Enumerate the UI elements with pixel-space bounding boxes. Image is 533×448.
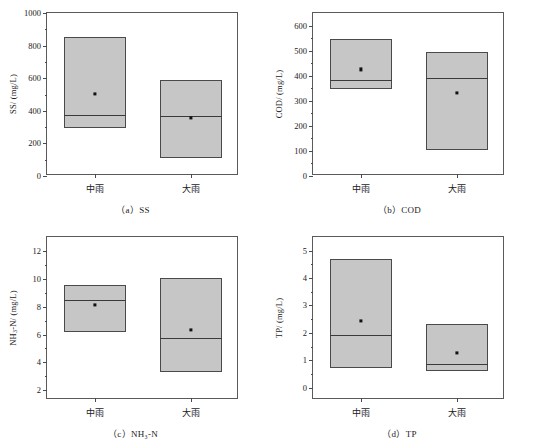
y-minor-tick-cod	[311, 88, 314, 89]
x-tick-ss-0	[95, 174, 96, 178]
median-line-cod-0	[330, 80, 392, 81]
median-line-tp-1	[426, 364, 488, 365]
y-tick-ss	[43, 46, 47, 47]
x-axis-label-nh3n-1: 大雨	[182, 406, 200, 419]
y-tick-ss	[43, 13, 47, 14]
median-line-ss-0	[64, 115, 126, 116]
y-tick-label-nh3n: 6	[37, 330, 41, 340]
y-tick-label-cod: 300	[294, 96, 307, 106]
y-tick-ss	[43, 176, 47, 177]
y-tick-tp	[309, 305, 313, 306]
x-tick-nh3n-0	[95, 398, 96, 402]
y-tick-label-tp: 2	[303, 328, 307, 338]
panel-caption-tp: （d）TP	[266, 427, 533, 440]
y-tick-tp	[309, 333, 313, 334]
x-tick-cod-1	[457, 174, 458, 178]
y-tick-label-cod: 600	[294, 21, 307, 31]
panel-nh3n: NH3-N/ (mg/L)24681012中雨大雨（c）NH₃-N	[0, 224, 266, 448]
y-tick-label-tp: 3	[303, 300, 307, 310]
y-tick-label-tp: 4	[303, 273, 307, 283]
x-axis-label-cod-1: 大雨	[448, 182, 466, 195]
y-tick-label-nh3n: 12	[33, 246, 42, 256]
y-tick-cod	[309, 26, 313, 27]
y-tick-label-cod: 200	[294, 121, 307, 131]
y-tick-ss	[43, 78, 47, 79]
x-axis-label-tp-1: 大雨	[448, 406, 466, 419]
y-tick-cod	[309, 151, 313, 152]
x-axis-label-cod-0: 中雨	[352, 182, 370, 195]
y-tick-label-ss: 1000	[24, 8, 41, 18]
y-tick-label-ss: 0	[37, 171, 41, 181]
mean-marker-ss-0	[93, 92, 96, 95]
y-tick-ss	[43, 111, 47, 112]
y-axis-label-ss: SS/ (mg/L)	[2, 12, 24, 175]
y-tick-tp	[309, 251, 313, 252]
y-tick-nh3n	[43, 362, 47, 363]
y-minor-tick-nh3n	[45, 265, 48, 266]
box-tp-0	[330, 259, 392, 367]
y-tick-tp	[309, 388, 313, 389]
median-line-nh3n-1	[160, 338, 222, 339]
x-axis-label-nh3n-0: 中雨	[86, 406, 104, 419]
y-minor-tick-nh3n	[45, 293, 48, 294]
mean-marker-tp-0	[359, 320, 362, 323]
mean-marker-cod-0	[359, 68, 362, 71]
x-axis-label-ss-0: 中雨	[86, 182, 104, 195]
median-line-tp-0	[330, 335, 392, 336]
y-minor-tick-tp	[311, 292, 314, 293]
plot-area-tp: 012345中雨大雨	[312, 236, 504, 399]
box-cod-1	[426, 52, 488, 150]
mean-marker-cod-1	[455, 92, 458, 95]
y-minor-tick-tp	[311, 319, 314, 320]
x-tick-tp-0	[361, 398, 362, 402]
y-tick-label-ss: 400	[28, 106, 41, 116]
x-tick-cod-0	[361, 174, 362, 178]
median-line-cod-1	[426, 78, 488, 79]
y-minor-tick-cod	[311, 38, 314, 39]
figure-box-plot-grid: SS/ (mg/L)02004006008001000中雨大雨（a）SS COD…	[0, 0, 533, 448]
y-minor-tick-tp	[311, 374, 314, 375]
y-tick-label-nh3n: 4	[37, 357, 41, 367]
y-tick-label-cod: 500	[294, 46, 307, 56]
y-tick-label-ss: 800	[28, 41, 41, 51]
y-tick-cod	[309, 76, 313, 77]
y-minor-tick-tp	[311, 347, 314, 348]
y-tick-nh3n	[43, 251, 47, 252]
box-nh3n-0	[64, 285, 126, 332]
y-minor-tick-cod	[311, 63, 314, 64]
x-tick-tp-1	[457, 398, 458, 402]
y-minor-tick-cod	[311, 113, 314, 114]
mean-marker-nh3n-0	[93, 304, 96, 307]
mean-marker-nh3n-1	[189, 328, 192, 331]
y-tick-label-ss: 600	[28, 73, 41, 83]
y-tick-ss	[43, 143, 47, 144]
y-tick-tp	[309, 278, 313, 279]
y-tick-label-ss: 200	[28, 138, 41, 148]
y-minor-tick-nh3n	[45, 348, 48, 349]
y-tick-label-tp: 5	[303, 246, 307, 256]
y-tick-cod	[309, 101, 313, 102]
y-tick-cod	[309, 126, 313, 127]
y-tick-label-nh3n: 2	[37, 385, 41, 395]
y-tick-label-tp: 1	[303, 355, 307, 365]
y-tick-label-cod: 400	[294, 71, 307, 81]
y-minor-tick-ss	[45, 160, 48, 161]
panel-tp: TP/ (mg/L)012345中雨大雨（d）TP	[266, 224, 533, 448]
mean-marker-tp-1	[455, 351, 458, 354]
y-tick-label-nh3n: 10	[33, 274, 42, 284]
y-tick-nh3n	[43, 279, 47, 280]
x-axis-label-tp-0: 中雨	[352, 406, 370, 419]
panel-caption-nh3n: （c）NH₃-N	[0, 427, 266, 440]
y-minor-tick-ss	[45, 29, 48, 30]
y-tick-label-tp: 0	[303, 383, 307, 393]
y-minor-tick-ss	[45, 62, 48, 63]
y-tick-nh3n	[43, 307, 47, 308]
mean-marker-ss-1	[189, 117, 192, 120]
y-axis-label-nh3n: NH3-N/ (mg/L)	[2, 236, 24, 399]
panel-caption-ss: （a）SS	[0, 203, 266, 216]
y-axis-label-tp: TP/ (mg/L)	[268, 236, 290, 399]
y-tick-tp	[309, 360, 313, 361]
median-line-nh3n-0	[64, 300, 126, 301]
y-tick-cod	[309, 176, 313, 177]
box-nh3n-1	[160, 278, 222, 372]
